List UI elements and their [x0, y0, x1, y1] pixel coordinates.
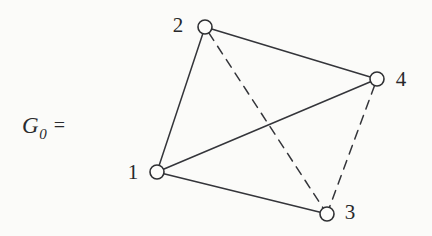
node-layer — [150, 20, 384, 221]
edge-2-4 — [212, 29, 371, 77]
edge-1-3 — [164, 174, 320, 213]
edge-2-1 — [159, 34, 203, 166]
node-label-2: 2 — [173, 15, 184, 36]
graph-node-2 — [198, 20, 212, 34]
graph-node-1 — [150, 165, 164, 179]
edge-2-3 — [209, 33, 323, 208]
edge-1-4 — [163, 82, 370, 170]
node-label-1: 1 — [128, 162, 139, 183]
node-label-4: 4 — [396, 69, 407, 90]
edge-4-3 — [329, 86, 374, 208]
graph-figure: G0= 1234 — [0, 0, 432, 236]
edge-layer — [159, 29, 374, 212]
graph-node-4 — [370, 72, 384, 86]
node-label-3: 3 — [345, 202, 356, 223]
graph-node-3 — [320, 207, 334, 221]
graph-canvas — [0, 0, 432, 236]
